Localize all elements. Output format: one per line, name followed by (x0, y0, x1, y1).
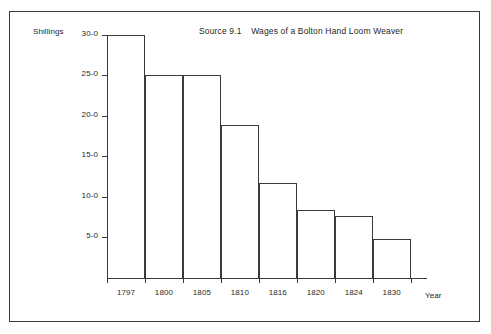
x-axis-label: Year (425, 291, 442, 300)
x-tick-label: 1820 (297, 288, 335, 297)
x-tick (221, 278, 222, 283)
x-tick (259, 278, 260, 283)
x-tick-label: 1810 (221, 288, 259, 297)
y-tick-label: 25-0 (82, 69, 98, 78)
bar[interactable] (183, 75, 221, 278)
bar[interactable] (297, 210, 335, 278)
x-tick-label: 1800 (145, 288, 183, 297)
plot-area: 5-010-015-020-025-030-0 1797180018051810… (107, 26, 427, 279)
x-tick-label: 1816 (259, 288, 297, 297)
figure-container: Source 9.1 Wages of a Bolton Hand Loom W… (0, 0, 491, 334)
x-tick-label: 1830 (373, 288, 411, 297)
x-tick-label: 1797 (107, 288, 145, 297)
x-tick-label: 1824 (335, 288, 373, 297)
y-tick-label: 20-0 (82, 110, 98, 119)
x-tick (107, 278, 108, 283)
y-tick-label: 10-0 (82, 191, 98, 200)
x-axis-line (107, 278, 427, 279)
x-tick (297, 278, 298, 283)
bar[interactable] (221, 125, 259, 278)
y-tick-label: 5-0 (86, 231, 98, 240)
x-tick-label: 1805 (183, 288, 221, 297)
y-axis-label: Shillings (33, 27, 64, 36)
x-tick-end (411, 278, 412, 283)
x-tick (373, 278, 374, 283)
y-tick-label: 15-0 (82, 150, 98, 159)
x-tick (183, 278, 184, 283)
x-tick (335, 278, 336, 283)
bar[interactable] (335, 216, 373, 279)
bar[interactable] (145, 75, 183, 278)
bar[interactable] (107, 35, 145, 279)
y-tick-label: 30-0 (82, 29, 98, 38)
bar[interactable] (259, 183, 297, 278)
bar[interactable] (373, 239, 411, 278)
x-tick (145, 278, 146, 283)
